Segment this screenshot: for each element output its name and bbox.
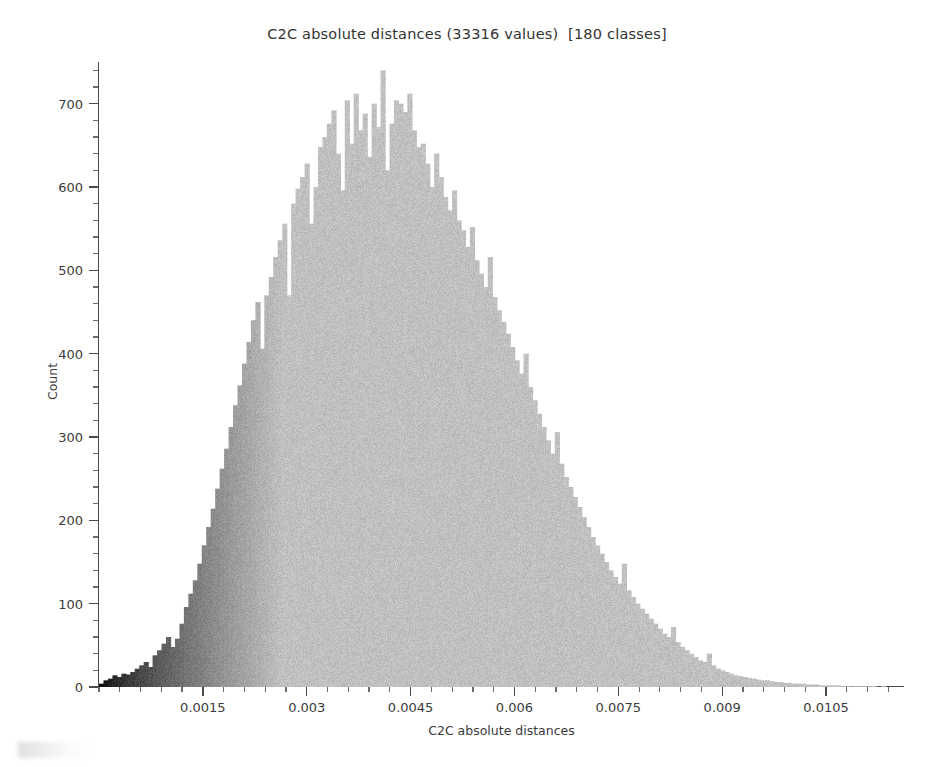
chart-title: C2C absolute distances (33316 values) [1… (0, 26, 934, 42)
y-tick-minor (93, 220, 98, 221)
y-tick-label: 0 (25, 680, 83, 695)
y-tick-minor (93, 70, 98, 71)
y-tick-label: 100 (25, 596, 83, 611)
x-tick-label: 0.0105 (771, 700, 881, 715)
y-tick-minor (93, 470, 98, 471)
y-tick-minor (93, 386, 98, 387)
y-tick-minor (93, 303, 98, 304)
y-tick-label: 500 (25, 263, 83, 278)
y-tick-major (89, 436, 98, 437)
x-tick-minor (535, 687, 536, 692)
x-tick-minor (742, 687, 743, 692)
x-tick-minor (119, 687, 120, 692)
y-tick-minor (93, 86, 98, 87)
x-tick-minor (805, 687, 806, 692)
y-tick-minor (93, 486, 98, 487)
x-tick-major (618, 687, 619, 696)
x-axis-label: C2C absolute distances (99, 723, 904, 738)
x-tick-major (514, 687, 515, 696)
y-tick-minor (93, 336, 98, 337)
x-tick-minor (452, 687, 453, 692)
x-tick-minor (639, 687, 640, 692)
y-tick-minor (93, 420, 98, 421)
page-scan-artifact (18, 742, 88, 758)
y-tick-major (89, 603, 98, 604)
y-tick-minor (93, 653, 98, 654)
x-tick-minor (784, 687, 785, 692)
y-tick-major (89, 186, 98, 187)
x-tick-label: 0.009 (667, 700, 777, 715)
x-tick-label: 0.003 (252, 700, 362, 715)
y-tick-minor (93, 320, 98, 321)
x-tick-minor (680, 687, 681, 692)
y-tick-major (89, 353, 98, 354)
x-tick-major (410, 687, 411, 696)
x-tick-major (722, 687, 723, 696)
y-tick-minor (93, 286, 98, 287)
x-tick-minor (265, 687, 266, 692)
x-tick-minor (181, 687, 182, 692)
x-tick-minor (555, 687, 556, 692)
plot-area (99, 62, 904, 687)
y-tick-minor (93, 536, 98, 537)
y-tick-minor (93, 170, 98, 171)
histogram-bars (99, 62, 904, 687)
y-tick-minor (93, 586, 98, 587)
x-tick-minor (285, 687, 286, 692)
y-tick-label: 700 (25, 96, 83, 111)
x-tick-minor (867, 687, 868, 692)
y-tick-major (89, 520, 98, 521)
y-tick-minor (93, 236, 98, 237)
x-tick-minor (846, 687, 847, 692)
y-tick-minor (93, 403, 98, 404)
y-tick-minor (93, 670, 98, 671)
x-tick-label: 0.0075 (563, 700, 673, 715)
x-tick-label: 0.0015 (148, 700, 258, 715)
x-tick-minor (701, 687, 702, 692)
x-tick-minor (576, 687, 577, 692)
y-tick-label: 200 (25, 513, 83, 528)
x-tick-minor (472, 687, 473, 692)
x-tick-minor (493, 687, 494, 692)
x-tick-minor (368, 687, 369, 692)
y-tick-minor (93, 553, 98, 554)
x-tick-minor (389, 687, 390, 692)
x-tick-minor (223, 687, 224, 692)
x-tick-major (202, 687, 203, 696)
x-tick-minor (244, 687, 245, 692)
y-tick-minor (93, 636, 98, 637)
y-tick-minor (93, 503, 98, 504)
x-tick-minor (98, 687, 99, 692)
x-tick-minor (161, 687, 162, 692)
y-tick-minor (93, 203, 98, 204)
x-tick-minor (140, 687, 141, 692)
x-tick-minor (597, 687, 598, 692)
y-tick-label: 600 (25, 180, 83, 195)
y-tick-minor (93, 136, 98, 137)
y-axis-label: Count (45, 322, 60, 442)
y-tick-minor (93, 370, 98, 371)
x-tick-label: 0.0045 (356, 700, 466, 715)
x-tick-minor (763, 687, 764, 692)
x-tick-major (306, 687, 307, 696)
x-tick-minor (888, 687, 889, 692)
x-tick-major (825, 687, 826, 696)
y-tick-minor (93, 253, 98, 254)
y-tick-major (89, 270, 98, 271)
y-tick-major (89, 686, 98, 687)
y-tick-major (89, 103, 98, 104)
histogram-figure: C2C absolute distances (33316 values) [1… (0, 0, 934, 767)
x-tick-label: 0.006 (459, 700, 569, 715)
y-tick-minor (93, 453, 98, 454)
y-tick-minor (93, 153, 98, 154)
y-tick-minor (93, 570, 98, 571)
x-tick-minor (431, 687, 432, 692)
x-tick-minor (348, 687, 349, 692)
y-tick-minor (93, 620, 98, 621)
x-tick-minor (327, 687, 328, 692)
y-tick-minor (93, 120, 98, 121)
x-tick-minor (659, 687, 660, 692)
